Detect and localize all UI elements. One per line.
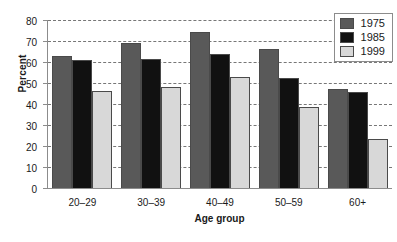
bar-1999 — [368, 139, 388, 188]
bar-1999 — [230, 77, 250, 188]
y-axis-tick: 60 — [43, 62, 47, 63]
bar-1975 — [52, 56, 72, 188]
bar-1985 — [210, 54, 230, 188]
y-axis-tick-label: 40 — [26, 100, 37, 111]
x-axis-tick-label: 40–49 — [206, 197, 234, 208]
bar-1999 — [92, 91, 112, 188]
legend-swatch — [340, 32, 354, 43]
legend-swatch — [340, 18, 354, 29]
legend-item: 1999 — [340, 46, 385, 57]
legend-item: 1985 — [340, 32, 385, 43]
bar-group: 40–49 — [190, 20, 250, 188]
bar-1999 — [299, 107, 319, 188]
y-axis-tick: 50 — [43, 83, 47, 84]
y-axis-tick-label: 20 — [26, 142, 37, 153]
bar-group: 30–39 — [121, 20, 181, 188]
y-axis-tick: 0 — [43, 188, 47, 189]
y-axis-tick-label: 30 — [26, 121, 37, 132]
bar-1975 — [190, 32, 210, 188]
y-axis-tick: 80 — [43, 20, 47, 21]
legend-label: 1975 — [361, 18, 385, 29]
x-axis-line — [47, 188, 392, 189]
x-axis-tick-label: 30–39 — [137, 197, 165, 208]
bar-1985 — [279, 78, 299, 188]
bar-1985 — [72, 60, 92, 188]
y-axis-tick-label: 60 — [26, 58, 37, 69]
y-axis-tick-label: 0 — [31, 184, 37, 195]
bar-1975 — [121, 43, 141, 188]
x-axis-tick-label: 20–29 — [68, 197, 96, 208]
y-axis-tick: 40 — [43, 104, 47, 105]
y-axis-tick-label: 10 — [26, 163, 37, 174]
y-axis-tick-label: 70 — [26, 37, 37, 48]
legend-item: 1975 — [340, 18, 385, 29]
legend: 197519851999 — [334, 13, 393, 62]
bar-1975 — [328, 89, 348, 188]
bar-group: 50–59 — [259, 20, 319, 188]
y-axis-tick-label: 50 — [26, 79, 37, 90]
x-axis-tick-label: 50–59 — [275, 197, 303, 208]
legend-label: 1985 — [361, 32, 385, 43]
bar-1999 — [161, 87, 181, 188]
y-axis-tick: 20 — [43, 146, 47, 147]
bar-1985 — [141, 59, 161, 188]
bar-chart: Percent 01020304050607080 20–2930–3940–4… — [0, 0, 397, 242]
y-axis-tick: 70 — [43, 41, 47, 42]
x-axis-tick-label: 60+ — [349, 197, 366, 208]
bar-group: 20–29 — [52, 20, 112, 188]
y-axis-tick: 10 — [43, 167, 47, 168]
y-axis-tick-label: 80 — [26, 16, 37, 27]
bar-1975 — [259, 49, 279, 188]
legend-label: 1999 — [361, 46, 385, 57]
bar-1985 — [348, 92, 368, 188]
y-axis-tick: 30 — [43, 125, 47, 126]
y-axis-title: Percent — [17, 14, 28, 134]
x-axis-title: Age group — [47, 213, 392, 224]
legend-swatch — [340, 46, 354, 57]
